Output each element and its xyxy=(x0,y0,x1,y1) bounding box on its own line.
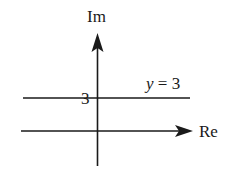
line-label-y-equals-3: y = 3 xyxy=(144,74,180,93)
imaginary-axis-label: Im xyxy=(87,7,106,26)
imaginary-axis xyxy=(92,33,104,166)
real-axis-label: Re xyxy=(199,122,218,141)
line-label-variable: y xyxy=(144,74,154,93)
line-label-value: 3 xyxy=(172,74,181,93)
real-axis xyxy=(21,125,193,137)
line-label-operator: = xyxy=(154,74,172,93)
complex-plane-diagram: Im Re 3 y = 3 xyxy=(0,0,238,169)
tick-label-3: 3 xyxy=(81,89,90,108)
